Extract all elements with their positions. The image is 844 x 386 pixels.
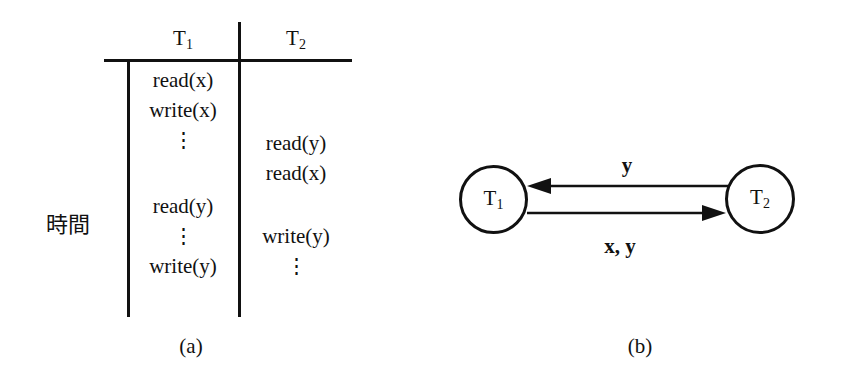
edge-label-bottom: x, y [604, 236, 636, 257]
arrow-head-into-t1 [527, 178, 551, 194]
t2-operation-ellipsis: ⋮ [286, 256, 307, 277]
graph-node-t2-label: T2 [750, 187, 770, 211]
column-header-t2-subscript: 2 [299, 37, 306, 52]
graph-node-t2-subscript: 2 [763, 196, 770, 211]
figure-container: 時間 T1 T2 read(x) write(x) ⋮ read(y) ⋮ wr… [0, 0, 844, 386]
t1-operation: read(y) [153, 196, 214, 217]
column-header-t2: T2 [286, 28, 306, 52]
column-header-t1-subscript: 1 [186, 37, 193, 52]
t2-operation: read(x) [266, 163, 327, 184]
t1-operation-ellipsis: ⋮ [173, 130, 194, 151]
graph-node-t2[interactable]: T2 [725, 164, 795, 234]
graph-node-t1-base: T [484, 186, 497, 210]
column-header-t2-base: T [286, 26, 299, 50]
column-header-t1-base: T [173, 26, 186, 50]
panel-caption-a: (a) [179, 336, 202, 357]
graph-node-t1-label: T1 [484, 188, 504, 212]
panel-caption-b: (b) [628, 336, 653, 357]
column-header-t1: T1 [173, 28, 193, 52]
t2-operation: write(y) [262, 226, 330, 247]
table-header-rule [104, 59, 352, 62]
t1-operation: read(x) [153, 70, 214, 91]
graph-node-t1[interactable]: T1 [459, 165, 528, 234]
time-axis-label: 時間 [46, 214, 90, 236]
edge-label-top: y [622, 155, 633, 176]
t2-operation: read(y) [266, 133, 327, 154]
t1-operation: write(x) [149, 100, 217, 121]
t1-operation-ellipsis: ⋮ [173, 226, 194, 247]
arrow-head-into-t2 [702, 205, 726, 221]
graph-node-t2-base: T [750, 185, 763, 209]
table-left-rule [127, 59, 130, 317]
graph-node-t1-subscript: 1 [496, 196, 503, 211]
t1-operation: write(y) [149, 256, 217, 277]
table-column-divider [238, 22, 241, 317]
